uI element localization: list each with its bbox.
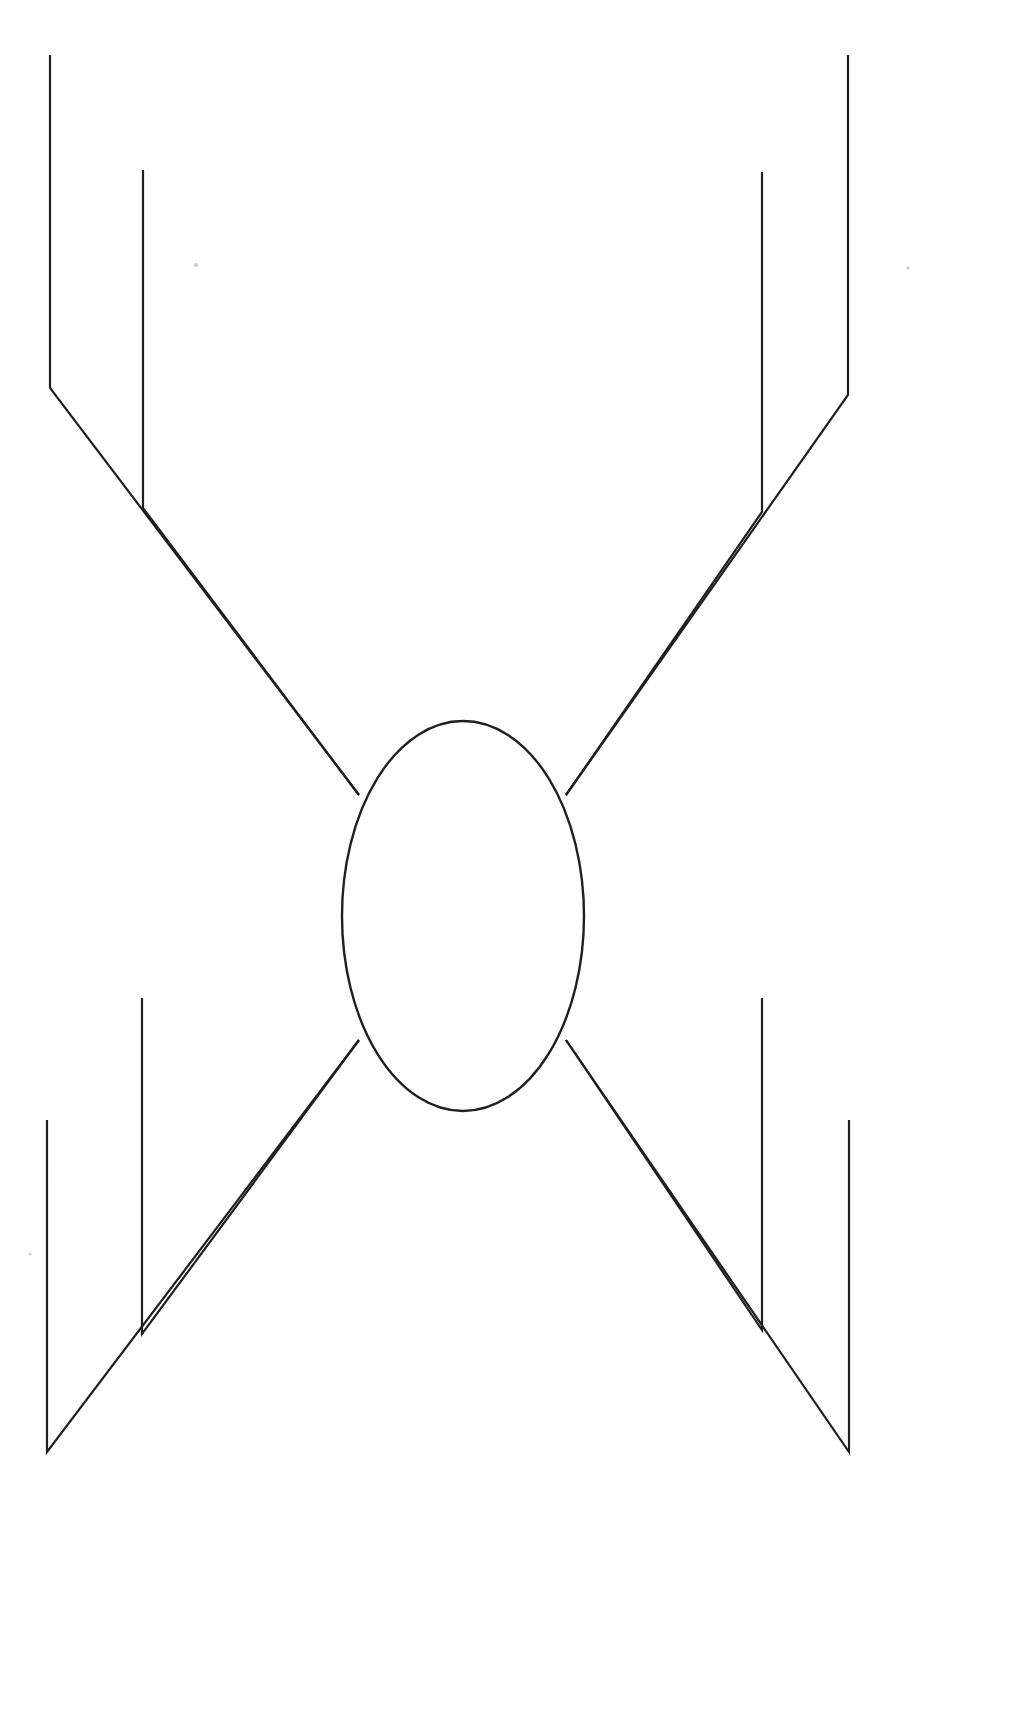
scan-speck-upper-right: [906, 266, 909, 269]
figure-canvas: [0, 0, 1010, 1734]
scan-speck-upper-left: [194, 263, 198, 267]
page-background: [0, 0, 1010, 1734]
scan-speck-lower-left: [29, 1253, 32, 1256]
diagram-svg: [0, 0, 1010, 1734]
